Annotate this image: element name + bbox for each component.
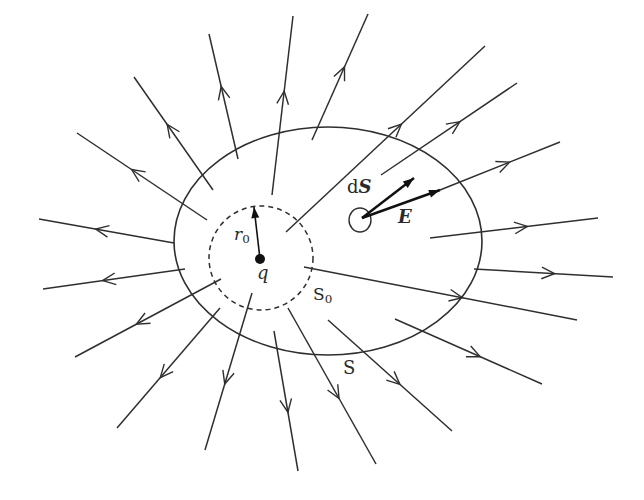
- field-line: [75, 279, 221, 357]
- field-line: [288, 308, 376, 464]
- area-element-S: S: [359, 176, 372, 197]
- radius-arrow-head-icon: [251, 207, 259, 218]
- field-line: [304, 267, 577, 320]
- inner-surface-symbol: S: [313, 284, 325, 304]
- inner-surface-subscript: 0: [325, 292, 333, 306]
- field-line: [395, 319, 542, 384]
- field-line: [134, 77, 213, 190]
- field-line: [430, 218, 598, 238]
- arrowhead-icon: [328, 384, 339, 398]
- area-element-label: dS: [347, 178, 372, 196]
- field-line: [312, 14, 368, 140]
- area-element-loop: [349, 208, 371, 232]
- diagram-canvas: [0, 0, 644, 500]
- radius-label: r0: [234, 226, 250, 246]
- radius-subscript: 0: [242, 232, 250, 246]
- radius-symbol: r: [234, 224, 242, 244]
- charge-label: q: [257, 264, 269, 282]
- outer-surface-label: S: [343, 359, 355, 377]
- field-line: [474, 269, 613, 277]
- field-line: [43, 269, 185, 289]
- area-element-d: d: [347, 176, 359, 197]
- field-label: E: [398, 208, 412, 226]
- E-vector-arrow-head-icon: [428, 190, 440, 198]
- field-line: [272, 16, 293, 195]
- field-line: [39, 219, 174, 243]
- field-line: [286, 46, 485, 232]
- field-lines: [39, 14, 613, 471]
- field-line: [77, 133, 207, 220]
- gauss-law-diagram: r0 q S0 S dS E: [0, 0, 644, 500]
- field-line: [209, 34, 238, 159]
- field-line: [440, 142, 560, 190]
- inner-surface-label: S0: [313, 286, 332, 306]
